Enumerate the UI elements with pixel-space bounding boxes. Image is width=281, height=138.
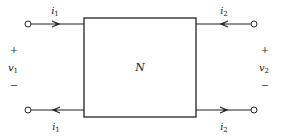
- terminal-bottom-left: [25, 107, 31, 113]
- network-label: N: [134, 61, 145, 74]
- terminal-bottom-right: [251, 107, 257, 113]
- terminal-top-left: [25, 21, 31, 27]
- right-minus-sign: −: [261, 80, 269, 91]
- left-plus-sign: +: [10, 44, 18, 55]
- right-bottom-current-label: i2: [220, 121, 228, 134]
- left-minus-sign: −: [10, 80, 18, 91]
- right-top-current-label: i2: [220, 5, 228, 18]
- terminal-top-right: [251, 21, 257, 27]
- left-top-current-label: i1: [51, 5, 59, 18]
- left-voltage-label: v1: [8, 62, 18, 75]
- right-voltage-label: v2: [259, 62, 269, 75]
- two-port-network-diagram: N + v1 − i1 i1 + v2 − i2 i2: [0, 0, 281, 138]
- right-plus-sign: +: [261, 44, 269, 55]
- left-bottom-current-label: i1: [52, 121, 60, 134]
